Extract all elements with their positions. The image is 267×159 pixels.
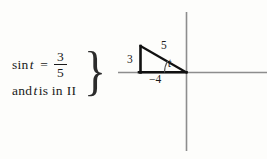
figure-canvas: sin t = 3 5 and t is in II }: [0, 0, 267, 159]
condition-text-label: is in: [39, 83, 63, 99]
fraction-numerator: 3: [57, 50, 64, 64]
label-hypotenuse: 5: [161, 39, 167, 51]
axes-and-triangle-graphic: [118, 6, 267, 156]
grouping-brace: }: [84, 44, 106, 98]
quadrant-condition-line: and t is in II: [12, 80, 76, 102]
fraction-three-fifths: 3 5: [54, 50, 67, 79]
sine-equation-line: sin t = 3 5: [12, 52, 67, 78]
condition-variable: t: [32, 83, 39, 99]
label-adjacent-leg: −4: [149, 73, 161, 85]
coordinate-diagram: 3 5 −4 t: [118, 6, 267, 156]
fraction-denominator: 5: [57, 65, 64, 79]
equals-sign: =: [35, 57, 52, 73]
label-opposite-leg: 3: [127, 53, 133, 65]
quadrant-label: II: [63, 83, 76, 99]
sine-function-label: sin: [12, 57, 28, 73]
label-angle-t: t: [168, 57, 171, 69]
condition-prefix-label: and: [12, 83, 32, 99]
sine-argument-variable: t: [28, 57, 35, 73]
